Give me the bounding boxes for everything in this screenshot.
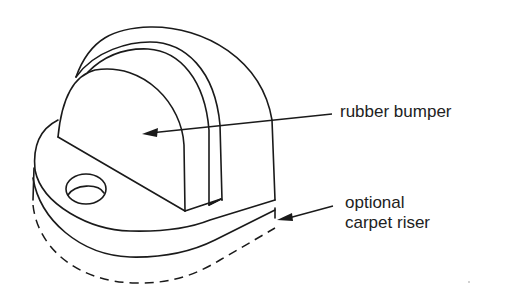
label-rubber-bumper: rubber bumper xyxy=(340,102,452,122)
base-top-outline xyxy=(35,120,275,231)
base-left-edge xyxy=(33,168,34,200)
door-stop-drawing xyxy=(0,0,505,294)
label-riser-line2: carpet riser xyxy=(345,213,430,233)
carpet-riser-outline xyxy=(33,205,275,283)
arrowhead-riser xyxy=(277,213,293,221)
housing-arc-inner xyxy=(88,49,209,205)
arrowhead-bumper xyxy=(142,128,158,137)
base-bottom-edge xyxy=(33,178,275,257)
scan-speck xyxy=(468,281,470,283)
screw-hole-inner xyxy=(68,186,104,195)
bumper-side-base xyxy=(185,199,221,211)
bumper-face-arc xyxy=(58,69,185,211)
bumper-face-base xyxy=(58,137,185,211)
diagram-canvas: rubber bumper optional carpet riser xyxy=(0,0,505,294)
label-riser-line1: optional xyxy=(345,193,405,213)
